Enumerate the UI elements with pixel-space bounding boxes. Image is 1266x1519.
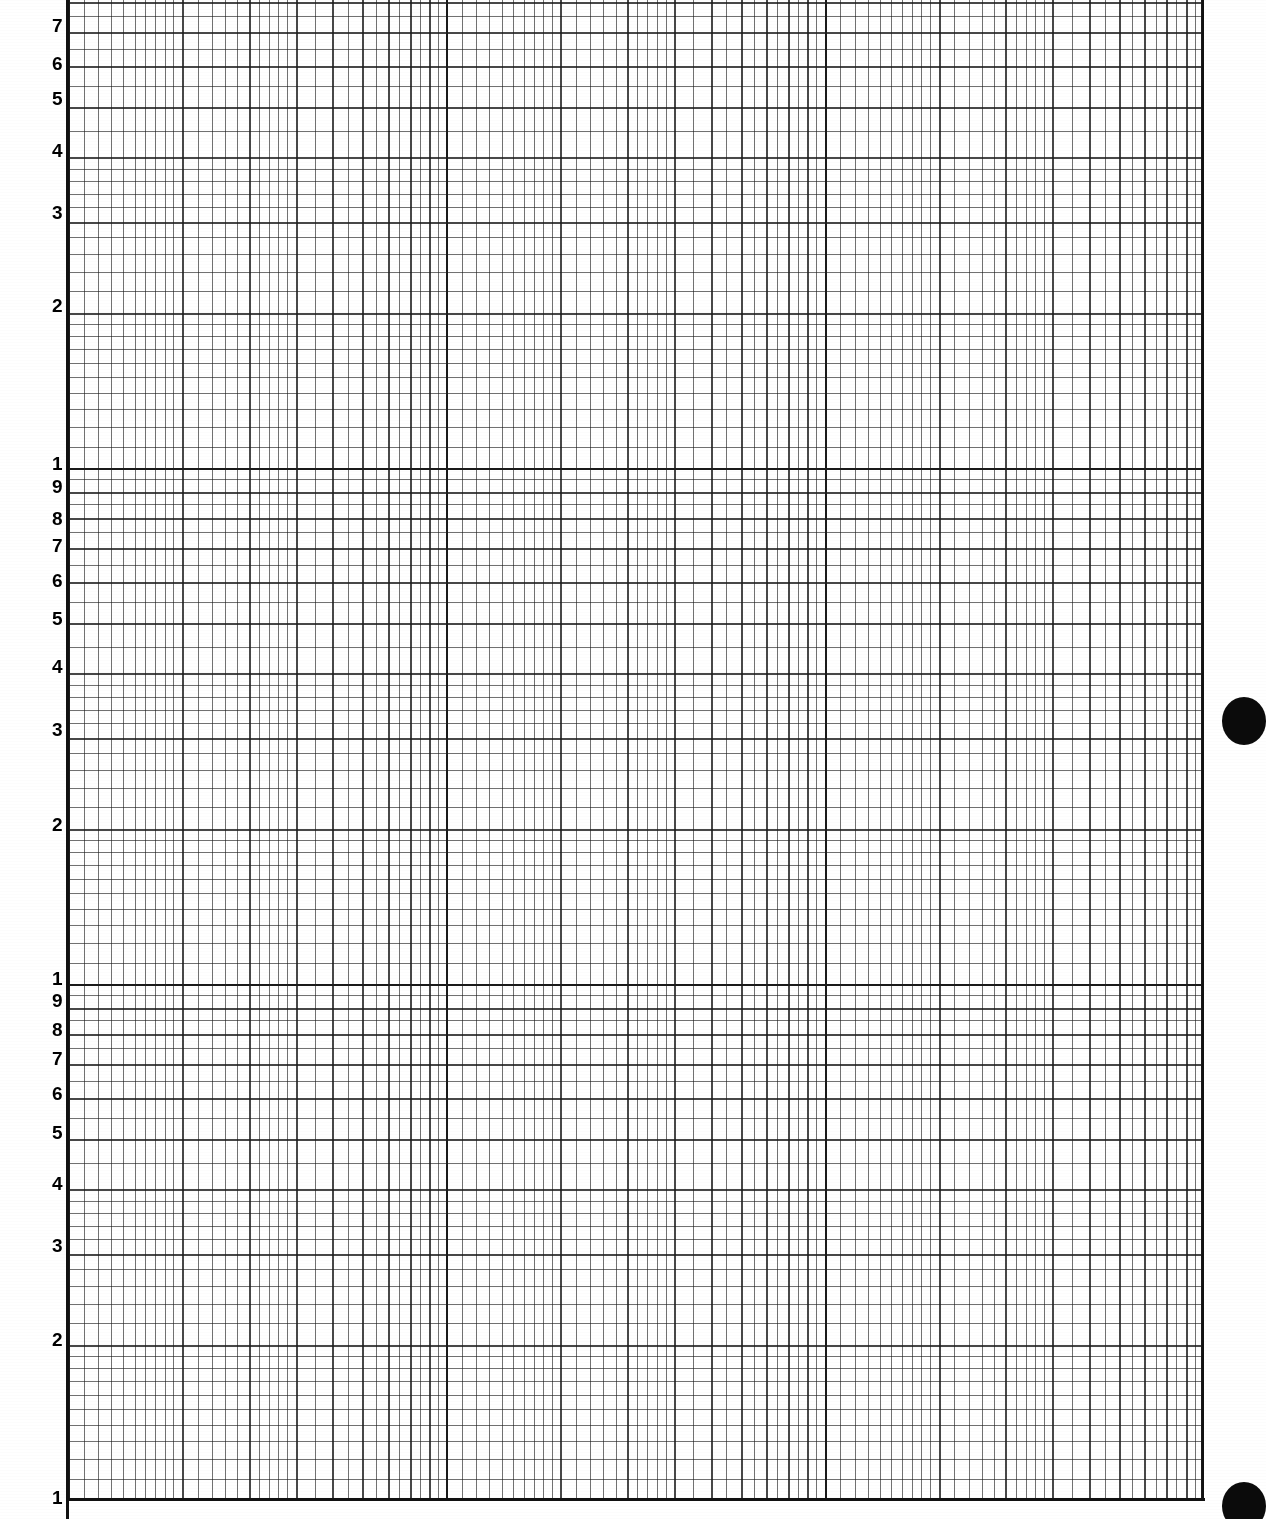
grid-line-vertical	[868, 0, 869, 1500]
grid-line-vertical	[969, 0, 970, 1500]
grid-line-vertical	[816, 0, 817, 1500]
grid-line-horizontal	[68, 2, 1203, 4]
y-axis-tick-label: 8	[34, 509, 62, 528]
grid-line-vertical	[259, 0, 260, 1500]
grid-line-horizontal	[68, 49, 1203, 50]
grid-line-horizontal	[68, 943, 1203, 944]
grid-line-horizontal	[68, 131, 1203, 132]
grid-line-vertical	[315, 0, 316, 1500]
grid-line-horizontal	[68, 377, 1203, 378]
grid-line-horizontal	[68, 1048, 1203, 1049]
y-axis-tick-label: 5	[34, 1123, 62, 1142]
y-axis-tick-label: 8	[34, 1020, 62, 1039]
grid-line-horizontal	[68, 479, 1203, 480]
grid-line-horizontal	[68, 237, 1203, 238]
grid-line-horizontal	[68, 565, 1203, 566]
grid-line-vertical	[182, 0, 184, 1500]
y-axis-tick-label: 5	[34, 89, 62, 108]
grid-line-vertical	[420, 0, 421, 1500]
grid-line-vertical	[502, 0, 503, 1500]
grid-line-vertical	[237, 0, 238, 1500]
grid-line-vertical	[982, 0, 983, 1500]
y-axis-tick-label: 2	[34, 1330, 62, 1349]
grid-line-vertical	[788, 0, 790, 1500]
grid-line-horizontal	[68, 852, 1203, 853]
grid-line-horizontal	[68, 32, 1203, 34]
y-axis-tick-label: 4	[34, 1174, 62, 1193]
grid-line-vertical	[754, 0, 755, 1500]
grid-line-vertical	[543, 0, 544, 1500]
grid-line-horizontal	[68, 1020, 1203, 1021]
punch-hole-icon	[1222, 697, 1266, 745]
grid-line-vertical	[296, 0, 298, 1500]
grid-line-vertical	[1005, 0, 1007, 1500]
grid-line-horizontal	[68, 1323, 1203, 1324]
grid-line-vertical	[438, 0, 439, 1500]
grid-line-horizontal	[68, 532, 1203, 533]
grid-line-vertical	[590, 0, 591, 1500]
grid-line-vertical	[98, 0, 99, 1500]
grid-line-horizontal	[68, 1356, 1203, 1357]
grid-line-horizontal	[68, 393, 1203, 394]
grid-line-horizontal	[68, 602, 1203, 603]
grid-line-horizontal	[68, 324, 1203, 325]
grid-line-vertical	[1144, 0, 1146, 1500]
grid-line-horizontal	[68, 770, 1203, 771]
grid-line-horizontal	[68, 504, 1203, 505]
graph-paper-sheet: 7654321987654321987654321 Logarithmic gr…	[0, 0, 1266, 1519]
grid-line-vertical	[446, 0, 448, 1500]
grid-line-vertical	[362, 0, 364, 1500]
grid-line-vertical	[476, 0, 477, 1500]
grid-line-horizontal	[68, 1189, 1203, 1191]
grid-line-horizontal	[68, 1239, 1203, 1240]
grid-line-vertical	[616, 0, 617, 1500]
grid-line-horizontal	[68, 1425, 1203, 1426]
grid-line-vertical	[489, 0, 490, 1500]
grid-line-horizontal	[68, 86, 1203, 87]
grid-line-vertical	[994, 0, 995, 1500]
grid-line-horizontal	[68, 16, 1203, 17]
x-axis-line	[66, 1498, 1205, 1501]
grid-line-horizontal	[68, 518, 1203, 520]
grid-line-horizontal	[68, 879, 1203, 880]
grid-line-horizontal	[68, 995, 1203, 996]
grid-line-vertical	[726, 0, 727, 1500]
grid-line-horizontal	[68, 829, 1203, 831]
grid-line-vertical	[627, 0, 629, 1500]
grid-line-vertical	[1132, 0, 1133, 1500]
grid-line-vertical	[198, 0, 199, 1500]
grid-line-vertical	[930, 0, 931, 1500]
y-axis-tick-label: 4	[34, 657, 62, 676]
y-axis-tick-label: 3	[34, 720, 62, 739]
y-axis-tick-labels: 7654321987654321987654321	[0, 0, 62, 1519]
grid-line-horizontal	[68, 1304, 1203, 1305]
y-axis-tick-label: 3	[34, 1236, 62, 1255]
y-axis-tick-label: 6	[34, 54, 62, 73]
grid-line-vertical	[1105, 0, 1106, 1500]
grid-line-vertical	[135, 0, 136, 1500]
y-axis-tick-label: 5	[34, 609, 62, 628]
grid-line-horizontal	[68, 1008, 1203, 1010]
y-axis-tick-label: 7	[34, 16, 62, 35]
grid-line-horizontal	[68, 925, 1203, 926]
grid-line-vertical	[552, 0, 553, 1500]
grid-line-horizontal	[68, 788, 1203, 789]
grid-line-horizontal	[68, 157, 1203, 159]
grid-line-horizontal	[68, 807, 1203, 808]
y-axis-tick-label: 1	[34, 969, 62, 988]
grid-line-horizontal	[68, 254, 1203, 255]
grid-line-horizontal	[68, 1441, 1203, 1442]
grid-line-vertical	[939, 0, 941, 1500]
grid-line-vertical	[173, 0, 174, 1500]
grid-line-horizontal	[68, 1345, 1203, 1347]
punch-hole-icon	[1222, 1482, 1266, 1519]
grid-line-horizontal	[68, 313, 1203, 315]
grid-line-horizontal	[68, 194, 1203, 195]
grid-line-vertical	[269, 0, 270, 1500]
grid-line-horizontal	[68, 427, 1203, 428]
y-axis-tick-label: 6	[34, 1084, 62, 1103]
grid-line-horizontal	[68, 169, 1203, 170]
grid-line-vertical	[155, 0, 156, 1500]
y-axis-tick-label: 3	[34, 203, 62, 222]
grid-line-horizontal	[68, 1395, 1203, 1396]
